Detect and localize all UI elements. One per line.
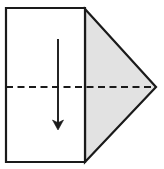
fold-diagram-container: Origami fold step diagram A white rectan… [0, 0, 164, 169]
triangle-flap [85, 9, 156, 162]
fold-diagram-svg: Origami fold step diagram A white rectan… [0, 0, 164, 169]
rectangle-panel [6, 8, 85, 162]
